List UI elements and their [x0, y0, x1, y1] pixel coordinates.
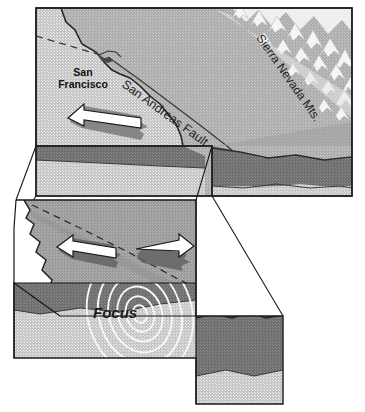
connector-lower-right: [212, 196, 283, 316]
lower-right-cut-face: [196, 313, 283, 404]
regional-block-diagram: San Francisco San Andreas Fault Sierra N…: [36, 4, 352, 196]
city-label-line1: San: [73, 66, 92, 78]
figure-canvas: San Francisco San Andreas Fault Sierra N…: [0, 0, 365, 412]
earthquake-fault-figure: San Francisco San Andreas Fault Sierra N…: [0, 0, 365, 412]
connector-upper-left: [16, 146, 36, 200]
city-label-line2: Francisco: [58, 78, 108, 90]
focus-label: Focus: [93, 304, 137, 321]
focus-block-diagram: Focus: [14, 200, 283, 404]
upper-rock-layer-right: [196, 316, 283, 376]
